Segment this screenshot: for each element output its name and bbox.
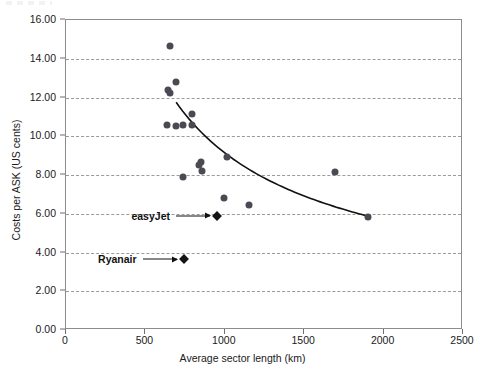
data-point <box>166 43 173 50</box>
y-axis-title: Costs per ASK (US cents) <box>10 80 22 280</box>
data-point <box>365 213 372 220</box>
scatter-chart: 0.002.004.006.008.0010.0012.0014.0016.00… <box>0 0 485 382</box>
data-point <box>163 121 170 128</box>
data-point <box>331 169 338 176</box>
data-point <box>223 153 230 160</box>
data-point <box>166 89 173 96</box>
annotation-label: Ryanair <box>98 253 137 265</box>
data-point <box>246 202 253 209</box>
data-point <box>179 173 186 180</box>
trend-curve <box>176 102 368 216</box>
annotation-arrow <box>176 215 210 216</box>
trend-curve-layer <box>0 0 485 382</box>
data-point <box>173 78 180 85</box>
data-point <box>198 168 205 175</box>
data-point <box>189 121 196 128</box>
data-point <box>173 122 180 129</box>
data-point <box>189 110 196 117</box>
data-point <box>220 195 227 202</box>
annotation-label: easyJet <box>131 210 170 222</box>
x-axis-title: Average sector length (km) <box>0 352 485 364</box>
data-point <box>180 121 187 128</box>
annotation-arrow <box>143 259 177 260</box>
